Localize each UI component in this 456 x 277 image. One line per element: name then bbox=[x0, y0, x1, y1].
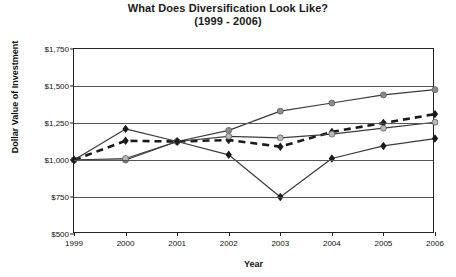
data-point-diamond bbox=[226, 151, 232, 159]
x-tick-label: 2001 bbox=[168, 239, 186, 248]
x-tick-mark bbox=[435, 232, 436, 236]
data-point-diamond bbox=[174, 137, 180, 145]
data-point-circle bbox=[226, 133, 232, 139]
y-tick-label: $1,250 bbox=[45, 119, 69, 128]
data-point-circle bbox=[277, 108, 283, 114]
series-layer bbox=[74, 49, 435, 234]
x-tick-label: 1999 bbox=[65, 239, 83, 248]
y-gridline bbox=[74, 86, 433, 87]
y-tick-label: $1,500 bbox=[45, 82, 69, 91]
y-gridline bbox=[74, 197, 433, 198]
y-tick-label: $750 bbox=[51, 193, 69, 202]
data-point-circle bbox=[380, 92, 386, 98]
chart-title-subtitle: (1999 - 2006) bbox=[0, 15, 456, 28]
y-tick-mark bbox=[70, 86, 74, 87]
data-point-diamond bbox=[122, 125, 128, 133]
y-tick-mark bbox=[70, 160, 74, 161]
y-tick-label: $500 bbox=[51, 230, 69, 239]
data-point-diamond bbox=[122, 137, 128, 145]
y-tick-label: $1,750 bbox=[45, 45, 69, 54]
x-axis-title: Year bbox=[73, 259, 434, 269]
series-line bbox=[74, 129, 435, 197]
data-point-circle bbox=[380, 125, 386, 131]
x-tick-label: 2005 bbox=[375, 239, 393, 248]
x-tick-mark bbox=[383, 232, 384, 236]
y-gridline bbox=[74, 123, 433, 124]
x-tick-mark bbox=[332, 232, 333, 236]
x-tick-mark bbox=[280, 232, 281, 236]
x-tick-mark bbox=[177, 232, 178, 236]
x-tick-label: 2002 bbox=[220, 239, 238, 248]
data-point-diamond bbox=[329, 154, 335, 162]
x-tick-mark bbox=[74, 232, 75, 236]
data-point-diamond bbox=[380, 142, 386, 150]
chart-title-main: What Does Diversification Look Like? bbox=[0, 2, 456, 15]
y-gridline bbox=[74, 160, 433, 161]
data-point-diamond bbox=[432, 110, 438, 118]
plot-area: $500$750$1,000$1,250$1,500$1,75019992000… bbox=[73, 48, 434, 233]
x-tick-label: 2006 bbox=[426, 239, 444, 248]
data-point-circle bbox=[329, 100, 335, 106]
x-tick-label: 2000 bbox=[117, 239, 135, 248]
y-axis-title: Dollar Value of Investment bbox=[10, 4, 20, 190]
chart-container: What Does Diversification Look Like? (19… bbox=[0, 0, 456, 277]
data-point-diamond bbox=[432, 134, 438, 142]
chart-title: What Does Diversification Look Like? (19… bbox=[0, 2, 456, 28]
x-tick-mark bbox=[229, 232, 230, 236]
data-point-circle bbox=[329, 131, 335, 137]
data-point-circle bbox=[277, 135, 283, 141]
data-point-diamond bbox=[277, 142, 283, 150]
y-tick-mark bbox=[70, 123, 74, 124]
y-tick-mark bbox=[70, 49, 74, 50]
y-tick-mark bbox=[70, 197, 74, 198]
x-tick-mark bbox=[126, 232, 127, 236]
series-line bbox=[74, 90, 435, 160]
data-point-circle bbox=[226, 127, 232, 133]
x-tick-label: 2004 bbox=[323, 239, 341, 248]
y-tick-label: $1,000 bbox=[45, 156, 69, 165]
data-point-circle bbox=[432, 87, 438, 93]
x-tick-label: 2003 bbox=[271, 239, 289, 248]
